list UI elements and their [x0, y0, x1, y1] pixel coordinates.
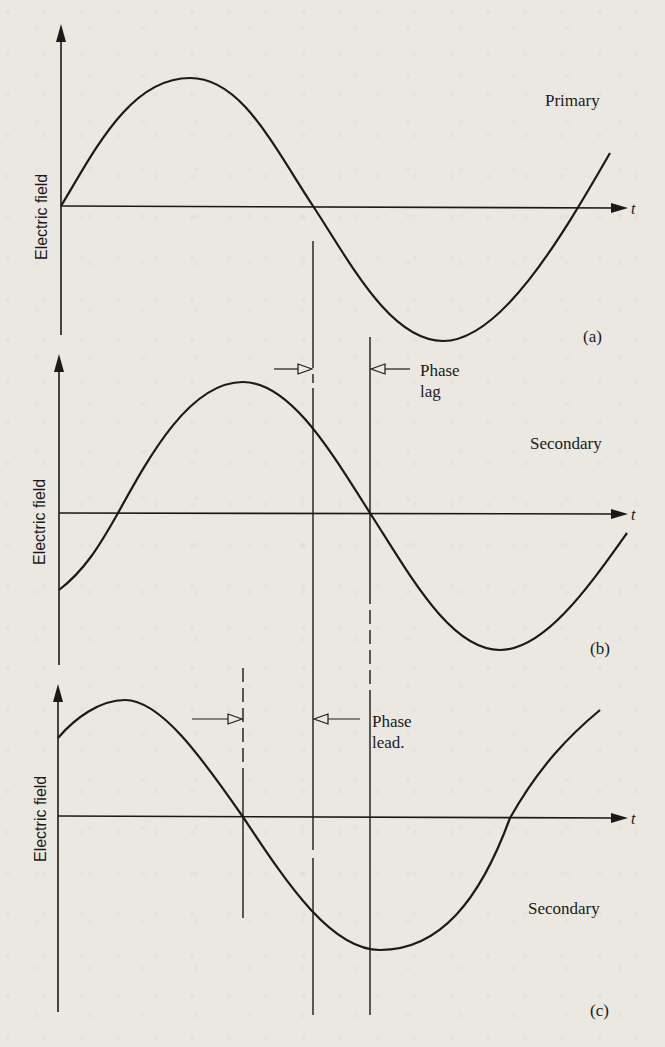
- t-axis-arrow-icon: [611, 203, 628, 213]
- phase-lead-label-line2: lead.: [372, 733, 405, 752]
- secondary-wave-lead: [58, 700, 600, 950]
- panel-b: t Secondary (b) Electric field Phase lag: [31, 354, 636, 665]
- t-axis-label-b: t: [631, 506, 636, 523]
- arrow-left-icon: [371, 364, 385, 374]
- t-axis-b: [59, 513, 620, 514]
- t-axis-arrow-icon: [611, 813, 628, 823]
- reference-lines: [243, 241, 370, 1015]
- secondary-wave-lag: [59, 382, 627, 650]
- phase-lag-indicator: Phase lag: [274, 361, 460, 401]
- t-axis-arrow-icon: [611, 509, 628, 519]
- panel-tag-c: (c): [590, 1001, 609, 1020]
- arrow-right-icon: [298, 364, 312, 374]
- y-axis-arrow-icon: [54, 354, 64, 372]
- y-axis-label-c: Electric field: [32, 776, 49, 862]
- wave-label-secondary-c: Secondary: [528, 899, 600, 918]
- phase-diagram: t Primary (a) Electric field t S: [0, 0, 665, 1047]
- panel-tag-a: (a): [583, 327, 602, 346]
- primary-wave: [61, 78, 610, 341]
- y-axis-arrow-icon: [53, 684, 63, 702]
- panel-tag-b: (b): [590, 639, 610, 658]
- phase-lead-label-line1: Phase: [372, 712, 412, 731]
- t-axis-a: [61, 206, 620, 208]
- wave-label-secondary-b: Secondary: [530, 434, 602, 453]
- y-axis-label-b: Electric field: [31, 479, 48, 565]
- panel-c: t Secondary (c) Electric field Phase lea…: [32, 684, 636, 1020]
- phase-lag-label-line2: lag: [420, 382, 441, 401]
- t-axis-c: [58, 816, 620, 818]
- t-axis-label-c: t: [631, 810, 636, 827]
- arrow-left-icon: [314, 714, 328, 724]
- arrow-right-icon: [228, 714, 242, 724]
- panel-a: t Primary (a) Electric field: [33, 24, 636, 346]
- t-axis-label-a: t: [631, 200, 636, 217]
- phase-lag-label-line1: Phase: [420, 361, 460, 380]
- y-axis-arrow-icon: [56, 24, 66, 42]
- y-axis-label-a: Electric field: [33, 174, 50, 260]
- phase-lead-indicator: Phase lead.: [192, 712, 412, 752]
- wave-label-primary: Primary: [545, 91, 600, 110]
